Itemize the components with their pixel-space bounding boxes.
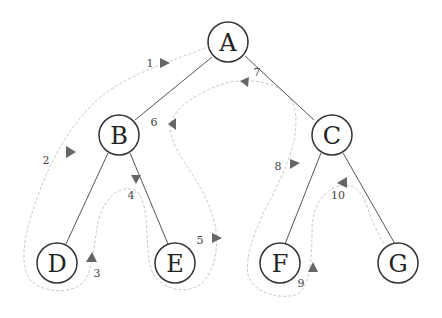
node-D: D xyxy=(37,243,77,283)
arrow-7-icon xyxy=(240,77,249,87)
step-label-2: 2 xyxy=(43,154,50,167)
node-F: F xyxy=(260,243,300,283)
step-label-5: 5 xyxy=(197,234,204,247)
arrow-1-icon xyxy=(160,58,170,68)
step-label-8: 8 xyxy=(275,160,282,173)
node-G: G xyxy=(378,243,418,283)
arrow-8-icon xyxy=(290,159,300,169)
step-label-4: 4 xyxy=(128,189,135,202)
node-label: A xyxy=(218,29,237,57)
node-C: C xyxy=(312,115,352,155)
arrow-2-icon xyxy=(66,146,76,158)
step-label-9: 9 xyxy=(298,277,305,290)
node-label: E xyxy=(166,250,184,278)
direction-arrows xyxy=(66,58,347,272)
node-label: F xyxy=(272,250,289,278)
arrow-4-icon xyxy=(131,175,141,184)
node-A: A xyxy=(208,22,248,62)
arrow-6-icon xyxy=(168,118,176,130)
node-label: B xyxy=(110,122,128,150)
step-label-7: 7 xyxy=(254,66,261,79)
traversal-path xyxy=(24,48,385,296)
node-label: D xyxy=(47,250,66,278)
tree-traversal-diagram: A B C D E F G 1 2 3 4 5 6 7 8 9 10 xyxy=(0,0,442,318)
step-label-6: 6 xyxy=(151,116,158,129)
step-label-1: 1 xyxy=(147,57,154,70)
node-label: G xyxy=(388,250,407,278)
node-label: C xyxy=(323,122,341,150)
node-E: E xyxy=(155,243,195,283)
step-label-10: 10 xyxy=(331,189,345,202)
step-label-3: 3 xyxy=(94,267,101,280)
node-B: B xyxy=(99,115,139,155)
arrow-3-icon xyxy=(86,252,97,262)
